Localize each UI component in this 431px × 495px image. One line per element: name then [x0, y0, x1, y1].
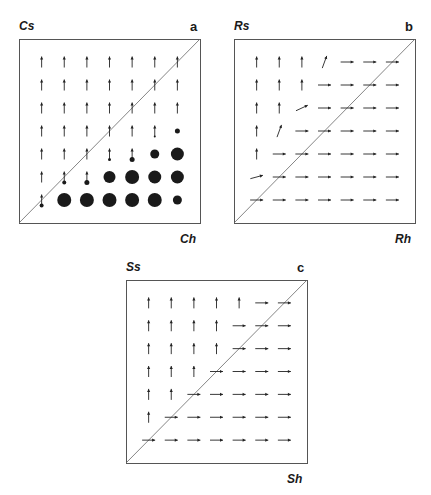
arrow-icon — [165, 439, 178, 442]
arrow-icon — [192, 320, 195, 331]
arrow-icon — [233, 347, 246, 350]
arrow-icon — [233, 416, 246, 419]
arrow-icon — [255, 324, 268, 327]
arrow-icon — [187, 416, 200, 419]
arrow-icon — [215, 297, 218, 308]
arrow-icon — [187, 393, 200, 396]
arrow-icon — [233, 439, 246, 442]
arrow-icon — [278, 347, 291, 350]
arrow-icon — [215, 320, 218, 331]
arrow-icon — [238, 297, 241, 308]
plot-frame — [127, 281, 308, 464]
arrow-icon — [255, 301, 268, 304]
arrow-icon — [278, 439, 291, 442]
arrow-icon — [210, 393, 223, 396]
arrow-icon — [210, 439, 223, 442]
arrow-icon — [147, 320, 150, 331]
arrow-icon — [215, 343, 218, 354]
arrow-icon — [187, 439, 200, 442]
arrow-icon — [255, 393, 268, 396]
arrow-icon — [278, 301, 291, 304]
arrow-icon — [170, 343, 173, 354]
arrow-icon — [170, 389, 173, 400]
arrow-icon — [278, 324, 291, 327]
arrow-icon — [255, 347, 268, 350]
arrow-icon — [170, 297, 173, 308]
arrow-icon — [233, 324, 246, 327]
arrow-icon — [170, 320, 173, 331]
arrow-icon — [147, 343, 150, 354]
arrow-icon — [233, 393, 246, 396]
arrow-icon — [147, 297, 150, 308]
arrow-icon — [278, 416, 291, 419]
arrow-icon — [278, 393, 291, 396]
arrow-icon — [192, 343, 195, 354]
arrow-icon — [233, 370, 246, 373]
arrow-icon — [210, 416, 223, 419]
arrow-icon — [165, 416, 178, 419]
arrow-icon — [192, 366, 195, 377]
arrow-icon — [255, 439, 268, 442]
arrow-icon — [255, 370, 268, 373]
arrow-icon — [278, 370, 291, 373]
arrow-icon — [142, 439, 155, 442]
panel-c: SscSh — [0, 0, 431, 495]
arrow-icon — [170, 366, 173, 377]
arrow-icon — [210, 370, 223, 373]
arrow-icon — [255, 416, 268, 419]
arrow-icon — [147, 412, 150, 423]
arrow-icon — [147, 366, 150, 377]
arrow-icon — [192, 297, 195, 308]
vector-field-plot — [0, 0, 431, 495]
arrow-icon — [147, 389, 150, 400]
